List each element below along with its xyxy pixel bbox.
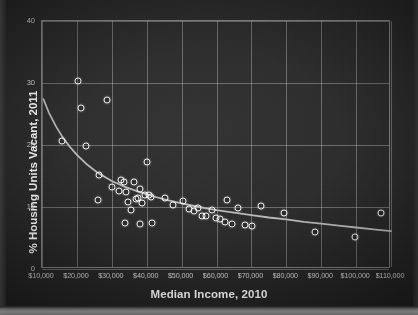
x-tick-label: $100,000 bbox=[341, 271, 370, 280]
photo-left-edge bbox=[0, 0, 6, 315]
y-axis-title: % Housing Units Vacant, 2011 bbox=[27, 67, 39, 277]
x-tick-label: $90,000 bbox=[308, 271, 333, 280]
x-axis-title: Median Income, 2010 bbox=[0, 288, 418, 300]
chart-photo-frame: 010203040 $10,000$20,000$30,000$40,000$5… bbox=[0, 0, 418, 315]
photo-bottom-edge bbox=[0, 306, 418, 315]
photo-right-edge bbox=[413, 0, 418, 315]
x-tick-label: $40,000 bbox=[133, 271, 158, 280]
x-tick-label: $20,000 bbox=[63, 271, 88, 280]
x-tick-label: $50,000 bbox=[168, 271, 193, 280]
x-tick-label: $70,000 bbox=[238, 271, 263, 280]
x-axis-tick-labels: $10,000$20,000$30,000$40,000$50,000$60,0… bbox=[0, 0, 418, 315]
x-tick-label: $80,000 bbox=[273, 271, 298, 280]
x-tick-label: $30,000 bbox=[98, 271, 123, 280]
x-tick-label: $110,000 bbox=[376, 271, 405, 280]
x-tick-label: $60,000 bbox=[203, 271, 228, 280]
y-axis-title-wrap: % Housing Units Vacant, 2011 bbox=[14, 30, 15, 31]
